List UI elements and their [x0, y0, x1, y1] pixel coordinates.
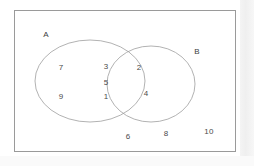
- page-backdrop-bottom: [0, 156, 254, 166]
- set-label-a: A: [43, 31, 49, 39]
- element-1: 1: [104, 93, 109, 101]
- venn-diagram-frame: AB79351246810: [14, 10, 236, 152]
- element-2: 2: [137, 64, 142, 72]
- element-10: 10: [204, 128, 213, 136]
- set-label-b: B: [194, 48, 200, 56]
- element-9: 9: [59, 93, 64, 101]
- element-8: 8: [164, 130, 169, 138]
- page-backdrop-right: [240, 0, 254, 166]
- set-b-ellipse: [107, 46, 195, 122]
- element-7: 7: [59, 64, 64, 72]
- set-a-circle: [35, 40, 145, 122]
- element-3: 3: [104, 63, 109, 71]
- element-4: 4: [144, 90, 149, 98]
- element-6: 6: [126, 133, 131, 141]
- element-5: 5: [104, 79, 109, 87]
